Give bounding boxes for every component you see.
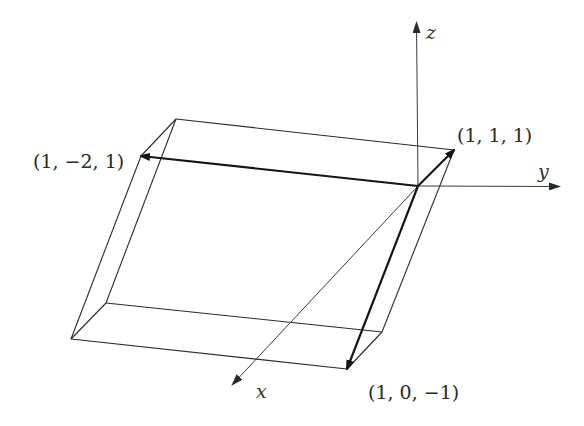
axes	[232, 22, 560, 385]
vector-1-0-neg1	[347, 186, 418, 369]
z-axis	[417, 22, 419, 186]
edge-bottom-left	[71, 303, 106, 339]
vector-1-1-1	[418, 150, 454, 186]
x-axis-label: x	[256, 380, 267, 402]
vector-label-1-neg2-1: (1, −2, 1)	[33, 150, 124, 172]
edge-bottom-outer	[71, 339, 347, 369]
edge-left-inner	[106, 119, 176, 303]
vector-label-1-1-1: (1, 1, 1)	[457, 124, 532, 146]
y-axis	[418, 186, 560, 187]
vectors	[141, 150, 454, 369]
edge-left-outer	[71, 156, 141, 339]
y-axis-label: y	[537, 160, 549, 182]
edge-top-left-front	[141, 119, 176, 156]
parallelepiped-diagram: z y x (1, 1, 1) (1, −2, 1) (1, 0, −1)	[0, 0, 584, 426]
edge-bottom-right	[347, 332, 382, 369]
z-axis-label: z	[425, 21, 437, 43]
edge-bottom-inner	[106, 303, 382, 332]
x-axis	[232, 186, 418, 385]
diagram-canvas: z y x (1, 1, 1) (1, −2, 1) (1, 0, −1)	[0, 0, 584, 426]
vector-1-neg2-1	[141, 156, 418, 186]
vector-label-1-0-neg1: (1, 0, −1)	[368, 381, 459, 403]
edge-top-back	[176, 119, 454, 150]
